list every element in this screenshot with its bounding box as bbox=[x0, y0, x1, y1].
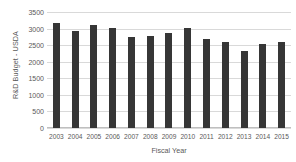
bar-slot bbox=[272, 12, 291, 128]
x-axis-tick-label: 2004 bbox=[66, 131, 85, 143]
bar-slot bbox=[103, 12, 122, 128]
y-axis-tick-labels: 0500100015002000250030003500 bbox=[20, 6, 44, 132]
x-axis-tick-label: 2014 bbox=[253, 131, 272, 143]
x-axis-title: Fiscal Year bbox=[47, 146, 291, 156]
bar[interactable] bbox=[72, 31, 79, 128]
y-axis-tick-label: 1000 bbox=[20, 92, 44, 99]
x-axis-tick-label: 2012 bbox=[216, 131, 235, 143]
bar-slot bbox=[141, 12, 160, 128]
bar-slot bbox=[197, 12, 216, 128]
bar[interactable] bbox=[128, 37, 135, 128]
gridline bbox=[47, 128, 291, 129]
bar[interactable] bbox=[109, 28, 116, 128]
y-axis-tick-label: 2500 bbox=[20, 42, 44, 49]
bar[interactable] bbox=[278, 42, 285, 128]
x-axis-tick-label: 2013 bbox=[235, 131, 254, 143]
x-axis-tick-label: 2011 bbox=[197, 131, 216, 143]
x-axis-tick-label: 2010 bbox=[178, 131, 197, 143]
bar[interactable] bbox=[165, 33, 172, 128]
bar-slot bbox=[122, 12, 141, 128]
bar-slot bbox=[47, 12, 66, 128]
y-axis-tick-label: 0 bbox=[20, 125, 44, 132]
bar-slot bbox=[235, 12, 254, 128]
bar-slot bbox=[66, 12, 85, 128]
x-axis-tick-label: 2009 bbox=[160, 131, 179, 143]
bar-slot bbox=[178, 12, 197, 128]
x-axis-tick-label: 2007 bbox=[122, 131, 141, 143]
y-axis-tick-label: 500 bbox=[20, 108, 44, 115]
x-axis-tick-label: 2005 bbox=[85, 131, 104, 143]
y-axis-tick-label: 3500 bbox=[20, 9, 44, 16]
bar-slot bbox=[160, 12, 179, 128]
bar-chart: R&D Budget - USDA 0500100015002000250030… bbox=[0, 0, 296, 162]
bar-slot bbox=[216, 12, 235, 128]
bar[interactable] bbox=[222, 42, 229, 128]
bar-slot bbox=[253, 12, 272, 128]
bar[interactable] bbox=[259, 44, 266, 128]
bar[interactable] bbox=[90, 25, 97, 128]
x-axis-tick-label: 2003 bbox=[47, 131, 66, 143]
bar-series bbox=[47, 12, 291, 128]
x-axis-tick-label: 2015 bbox=[272, 131, 291, 143]
y-axis-tick-label: 1500 bbox=[20, 75, 44, 82]
bar[interactable] bbox=[147, 36, 154, 128]
x-axis-tick-labels: 2003200420052006200720082009201020112012… bbox=[47, 131, 291, 143]
x-axis-tick-label: 2006 bbox=[103, 131, 122, 143]
x-axis-tick-label: 2008 bbox=[141, 131, 160, 143]
bar[interactable] bbox=[203, 39, 210, 128]
y-axis-tick-label: 2000 bbox=[20, 59, 44, 66]
y-axis-tick-label: 3000 bbox=[20, 26, 44, 33]
plot-area bbox=[47, 12, 291, 128]
bar[interactable] bbox=[53, 23, 60, 128]
bar[interactable] bbox=[184, 28, 191, 128]
bar[interactable] bbox=[241, 51, 248, 128]
bar-slot bbox=[85, 12, 104, 128]
